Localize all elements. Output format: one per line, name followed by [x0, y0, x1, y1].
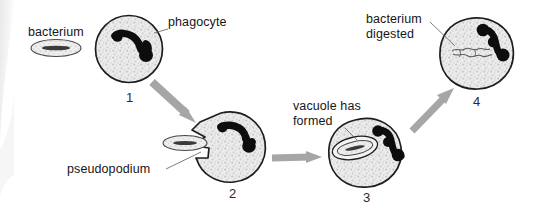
- arrow-step3-to-step4: [412, 88, 454, 131]
- label-phagocyte: phagocyte: [168, 15, 227, 30]
- free-bacterium: [31, 40, 81, 57]
- step-number-3: 3: [363, 190, 370, 205]
- label-bacterium: bacterium: [28, 25, 84, 40]
- label-vacuole-line2: formed: [293, 114, 333, 129]
- step-number-2: 2: [229, 186, 236, 201]
- cell-step-3: [329, 118, 405, 187]
- arrow-step2-to-step3: [272, 151, 322, 163]
- leader-line-pseudopodium: [166, 152, 201, 169]
- label-digested-line1: bacterium: [366, 12, 422, 27]
- step-number-1: 1: [126, 90, 133, 105]
- step-number-4: 4: [473, 94, 480, 109]
- cell-step-4: [440, 18, 513, 89]
- label-pseudopodium: pseudopodium: [67, 162, 150, 177]
- cell-step-1: [96, 16, 163, 83]
- label-vacuole-line1: vacuole has: [293, 99, 361, 114]
- arrow-step1-to-step2: [152, 82, 196, 123]
- background-wash-lower: [0, 96, 14, 196]
- phagocytosis-diagram: bacterium phagocyte pseudopodium vacuole…: [0, 0, 535, 209]
- bacterium-being-engulfed: [163, 136, 207, 151]
- label-digested-line2: digested: [366, 27, 414, 42]
